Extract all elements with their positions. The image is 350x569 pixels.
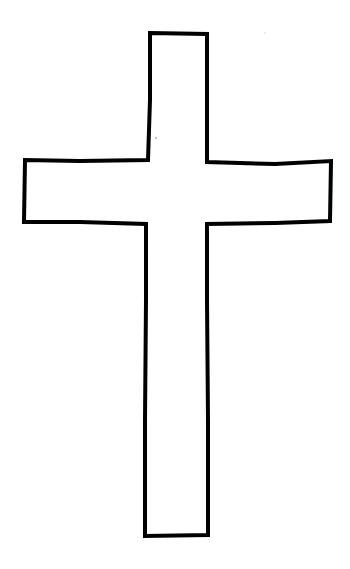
cross-outline — [24, 33, 331, 536]
speck-mark — [264, 32, 265, 33]
cross-drawing — [0, 0, 350, 569]
speck-mark — [155, 137, 157, 139]
